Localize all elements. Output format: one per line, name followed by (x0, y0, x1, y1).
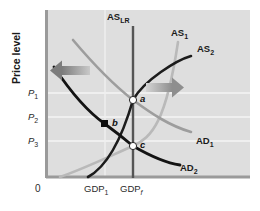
curve-label-as-1: AS1 (171, 27, 188, 40)
point-label-a: a (140, 93, 145, 104)
y-axis-title: Price level (10, 16, 22, 100)
curve-label-as-lr: ASLR (107, 11, 130, 24)
point-label-c: c (140, 139, 145, 150)
as-ad-diagram (0, 0, 260, 211)
origin-label: 0 (35, 183, 41, 194)
point-a-marker (129, 96, 136, 103)
curve-label-ad-2: AD2 (180, 162, 198, 175)
x-tick-gdp1: GDP1 (84, 183, 109, 196)
curve-label-ad-1: AD1 (196, 135, 214, 148)
y-tick-p3: P3 (28, 135, 38, 148)
point-c-marker (129, 142, 136, 149)
point-b-marker (101, 120, 108, 127)
y-tick-p1: P1 (28, 87, 38, 100)
y-tick-p2: P2 (28, 111, 38, 124)
x-tick-gdpf: GDPf (120, 183, 143, 196)
point-label-b: b (112, 117, 118, 128)
curve-label-as-2: AS2 (197, 43, 214, 56)
